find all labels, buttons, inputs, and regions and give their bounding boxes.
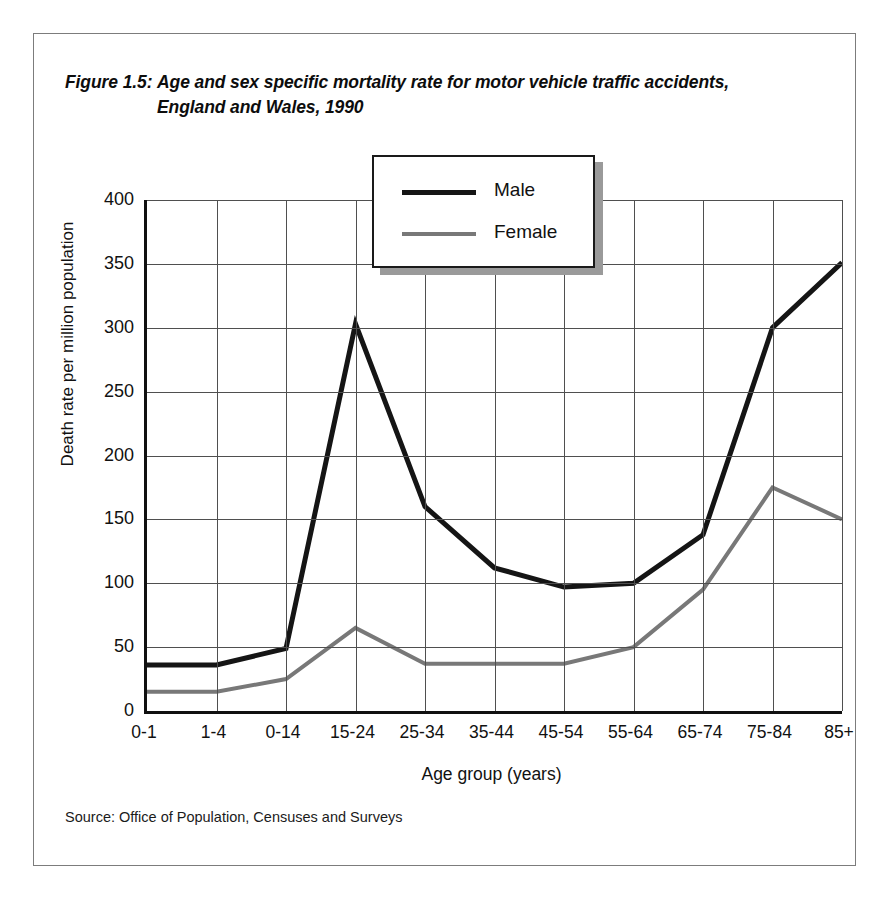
y-axis-tick-label: 400 bbox=[88, 189, 134, 210]
x-axis-tick-label: 0-1 bbox=[107, 722, 181, 743]
gridline-vertical bbox=[356, 200, 357, 711]
y-axis-tick-labels: 050100150200250300350400 bbox=[76, 200, 134, 711]
legend-label-male: Male bbox=[494, 179, 535, 201]
y-axis-title: Death rate per million population bbox=[58, 124, 78, 564]
gridline-vertical bbox=[773, 200, 774, 711]
y-axis-tick-label: 100 bbox=[88, 572, 134, 593]
chart-area: Death rate per million population 050100… bbox=[34, 34, 857, 867]
y-axis-tick-label: 350 bbox=[88, 253, 134, 274]
x-axis-tick-label: 15-24 bbox=[316, 722, 390, 743]
x-axis-tick-label: 35-44 bbox=[455, 722, 529, 743]
source-note: Source: Office of Population, Censuses a… bbox=[65, 809, 402, 825]
legend-item-female[interactable]: Female bbox=[374, 217, 597, 251]
legend-swatch-male bbox=[402, 190, 476, 195]
y-axis-tick-label: 150 bbox=[88, 508, 134, 529]
x-axis-tick-label: 85+ bbox=[802, 722, 876, 743]
gridline-vertical bbox=[425, 200, 426, 711]
gridline-vertical bbox=[703, 200, 704, 711]
gridline-vertical bbox=[564, 200, 565, 711]
legend-item-male[interactable]: Male bbox=[374, 175, 597, 209]
gridline-vertical bbox=[495, 200, 496, 711]
y-axis-tick-label: 300 bbox=[88, 317, 134, 338]
legend: MaleFemale bbox=[372, 155, 595, 268]
x-axis-tick-label: 75-84 bbox=[733, 722, 807, 743]
x-axis-tick-label: 55-64 bbox=[594, 722, 668, 743]
legend-swatch-female bbox=[402, 232, 476, 236]
y-axis-tick-label: 250 bbox=[88, 381, 134, 402]
gridline-vertical bbox=[286, 200, 287, 711]
gridline-vertical bbox=[217, 200, 218, 711]
legend-label-female: Female bbox=[494, 221, 557, 243]
y-axis-tick-label: 200 bbox=[88, 445, 134, 466]
x-axis-title: Age group (years) bbox=[144, 764, 839, 785]
x-axis-tick-label: 1-4 bbox=[177, 722, 251, 743]
gridline-vertical bbox=[842, 200, 843, 711]
x-axis-tick-label: 45-54 bbox=[524, 722, 598, 743]
figure-frame: Figure 1.5:Age and sex specific mortalit… bbox=[33, 33, 856, 866]
y-axis-tick-label: 0 bbox=[88, 700, 134, 721]
x-axis-tick-label: 25-34 bbox=[385, 722, 459, 743]
x-axis-tick-labels: 0-11-40-1415-2425-3435-4445-5455-6465-74… bbox=[144, 722, 839, 750]
y-axis-tick-label: 50 bbox=[88, 636, 134, 657]
plot-inner bbox=[147, 200, 842, 711]
x-axis-tick-label: 65-74 bbox=[663, 722, 737, 743]
x-axis-tick-label: 0-14 bbox=[246, 722, 320, 743]
gridline-vertical bbox=[634, 200, 635, 711]
plot-area bbox=[144, 200, 842, 714]
